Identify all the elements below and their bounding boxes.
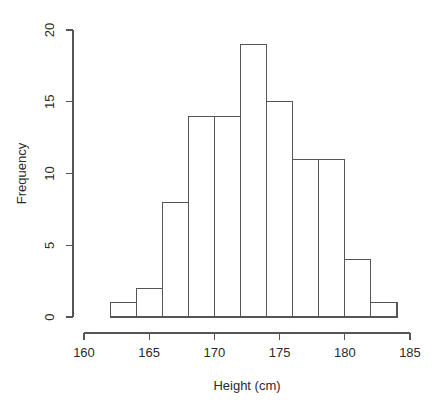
- histogram-bar: [371, 303, 397, 317]
- x-axis-tick-label: 170: [204, 345, 226, 360]
- histogram-bar: [267, 102, 293, 317]
- x-axis-tick-label: 180: [334, 345, 356, 360]
- chart-canvas: 05101520Frequency160165170175180185Heigh…: [0, 0, 435, 405]
- y-axis-tick-label: 20: [42, 23, 57, 37]
- x-axis-tick-label: 175: [269, 345, 291, 360]
- histogram-plot: 05101520Frequency160165170175180185Heigh…: [0, 0, 435, 405]
- y-axis-title: Frequency: [14, 142, 29, 204]
- histogram-bar: [319, 159, 345, 317]
- histogram-bar: [345, 260, 371, 317]
- x-axis-title: Height (cm): [213, 378, 280, 393]
- x-axis-tick-label: 185: [399, 345, 421, 360]
- y-axis-tick-label: 5: [42, 242, 57, 249]
- histogram-bar: [136, 288, 162, 317]
- histogram-bar: [293, 159, 319, 317]
- histogram-bar: [240, 44, 266, 317]
- y-axis-tick-label: 0: [42, 313, 57, 320]
- y-axis-tick-label: 15: [42, 95, 57, 109]
- x-axis-tick-label: 165: [138, 345, 160, 360]
- histogram-bar: [162, 202, 188, 317]
- histogram-bar: [110, 303, 136, 317]
- y-axis-tick-label: 10: [42, 166, 57, 180]
- x-axis-tick-label: 160: [73, 345, 95, 360]
- histogram-bar: [188, 116, 214, 317]
- histogram-bar: [214, 116, 240, 317]
